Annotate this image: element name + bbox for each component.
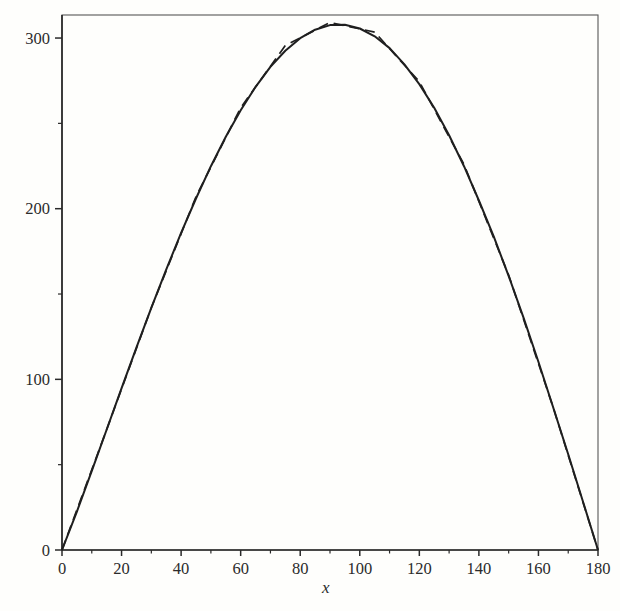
x-axis-title: x [316, 578, 336, 598]
solid-curve [62, 25, 598, 550]
dashed-curve [62, 23, 598, 551]
x-tick-label-60: 60 [232, 559, 249, 578]
x-tick-label-20: 20 [113, 559, 130, 578]
y-tick-label-200: 200 [25, 199, 50, 218]
scanned-figure-page: 0204060801001201401601800100200300 x [0, 0, 620, 611]
x-tick-label-180: 180 [586, 559, 611, 578]
plot-frame [62, 15, 598, 550]
plot-canvas: 0204060801001201401601800100200300 [0, 0, 620, 611]
x-tick-label-120: 120 [407, 559, 432, 578]
x-tick-label-100: 100 [347, 559, 372, 578]
x-tick-label-0: 0 [58, 559, 66, 578]
y-tick-label-300: 300 [25, 29, 50, 48]
y-tick-label-100: 100 [25, 370, 50, 389]
x-tick-label-140: 140 [467, 559, 492, 578]
x-tick-label-80: 80 [292, 559, 309, 578]
x-tick-label-40: 40 [173, 559, 190, 578]
trajectory-plot: 0204060801001201401601800100200300 x [0, 0, 620, 611]
x-tick-label-160: 160 [526, 559, 551, 578]
y-tick-label-0: 0 [42, 541, 50, 560]
